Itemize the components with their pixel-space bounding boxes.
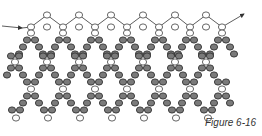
gray-bead — [112, 107, 119, 113]
white-bead-crossing — [27, 86, 34, 92]
gray-bead — [200, 107, 207, 113]
white-bead-crossing — [59, 86, 66, 92]
gray-bead — [19, 44, 26, 50]
gray-bead — [147, 44, 154, 50]
gray-bead — [198, 53, 205, 59]
gray-bead — [230, 51, 237, 57]
white-bead-valley — [186, 24, 193, 30]
gray-bead — [63, 79, 70, 85]
gray-bead — [39, 53, 46, 59]
gray-bead — [51, 72, 58, 78]
gray-bead — [63, 93, 70, 99]
gray-bead — [135, 65, 142, 71]
white-bead-valley — [123, 24, 130, 30]
gray-bead — [99, 44, 106, 50]
white-bead-valley — [186, 30, 193, 36]
white-bead-crossing — [11, 59, 18, 65]
thread-entry-arrow-icon — [2, 26, 22, 28]
beadwork-diagram: Figure 6-16 — [0, 0, 262, 136]
gray-bead — [144, 107, 151, 113]
gray-bead — [151, 93, 158, 99]
gray-bead — [111, 65, 118, 71]
gray-bead — [99, 100, 106, 106]
gray-bead — [127, 79, 134, 85]
white-bead-top-peak — [202, 12, 209, 18]
white-bead-bottom — [140, 115, 147, 121]
gray-bead — [194, 100, 201, 106]
gray-bead — [159, 93, 166, 99]
gray-bead — [35, 44, 42, 50]
gray-bead — [71, 53, 78, 59]
gray-bead — [119, 79, 126, 85]
gray-bead — [15, 53, 22, 59]
white-bead-crossing — [139, 59, 146, 65]
gray-bead — [71, 65, 78, 71]
gray-bead — [179, 72, 186, 78]
gray-bead — [151, 37, 158, 43]
white-bead-crossing — [75, 59, 82, 65]
white-bead-valley — [59, 24, 66, 30]
white-bead-valley — [155, 24, 162, 30]
gray-bead — [178, 44, 185, 50]
gray-bead — [3, 72, 10, 78]
gray-bead — [19, 72, 26, 78]
white-bead-crossing — [123, 86, 130, 92]
white-bead-valley — [218, 30, 225, 36]
gray-bead — [143, 53, 150, 59]
gray-bead — [80, 107, 87, 113]
gray-bead — [23, 79, 30, 85]
gray-bead — [35, 100, 42, 106]
gray-bead — [87, 79, 94, 85]
white-bead-bottom — [76, 115, 83, 121]
gray-bead — [151, 79, 158, 85]
gray-bead — [182, 37, 189, 43]
gray-bead — [163, 72, 170, 78]
gray-bead — [190, 93, 197, 99]
gray-bead — [7, 53, 14, 59]
gray-bead — [16, 107, 23, 113]
gray-bead — [168, 107, 175, 113]
gray-bead — [67, 100, 74, 106]
gray-bead — [135, 53, 142, 59]
gray-bead — [206, 53, 213, 59]
white-bead-valley — [123, 30, 130, 36]
gray-bead — [31, 93, 38, 99]
gray-bead — [7, 65, 14, 71]
gray-bead — [83, 44, 90, 50]
gray-bead — [210, 44, 217, 50]
gray-bead — [194, 72, 201, 78]
gray-bead — [51, 44, 58, 50]
gray-bead — [167, 65, 174, 71]
white-bead-inner — [171, 24, 178, 30]
white-bead-crossing — [43, 59, 50, 65]
gray-bead — [176, 107, 183, 113]
white-bead-inner — [107, 24, 114, 30]
gray-bead — [51, 100, 58, 106]
white-bead-inner — [75, 24, 82, 30]
gray-bead — [190, 37, 197, 43]
gray-bead — [163, 44, 170, 50]
gray-bead — [214, 37, 221, 43]
white-bead-crossing — [91, 86, 98, 92]
gray-bead — [23, 37, 30, 43]
white-bead-valley — [59, 30, 66, 36]
gray-bead — [190, 79, 197, 85]
white-bead-top-peak — [43, 12, 50, 18]
gray-bead — [55, 93, 62, 99]
gray-bead — [67, 44, 74, 50]
gray-bead — [99, 72, 106, 78]
white-bead-crossing — [171, 59, 178, 65]
white-bead-valley — [91, 24, 98, 30]
gray-bead — [79, 53, 86, 59]
gray-bead — [214, 93, 221, 99]
gray-bead — [83, 72, 90, 78]
netting-stitch-diagram — [0, 0, 262, 136]
gray-bead — [119, 93, 126, 99]
gray-bead — [63, 37, 70, 43]
white-bead-top-peak — [139, 12, 146, 18]
gray-bead — [159, 37, 166, 43]
gray-bead — [111, 53, 118, 59]
gray-bead — [198, 65, 205, 71]
gray-bead — [31, 79, 38, 85]
gray-bead — [40, 107, 47, 113]
